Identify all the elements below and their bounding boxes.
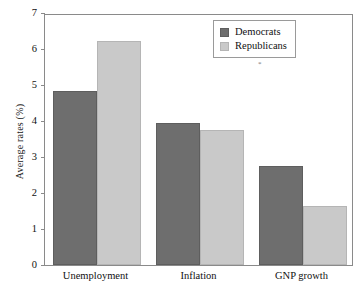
y-axis-tick-label: 6 bbox=[32, 44, 41, 55]
chart-legend: Democrats Republicans bbox=[213, 20, 296, 58]
bar-series-container bbox=[45, 15, 352, 265]
y-axis-tick-label: 1 bbox=[32, 224, 41, 235]
x-axis-tick-label: Unemployment bbox=[36, 270, 156, 281]
y-axis-tick-label: 3 bbox=[32, 152, 41, 163]
y-axis-tick-mark bbox=[41, 13, 45, 14]
legend-item: Democrats bbox=[220, 25, 287, 39]
legend-asterisk-annotation: * bbox=[258, 61, 262, 68]
legend-swatch-democrats bbox=[220, 28, 229, 37]
y-axis-tick-label: 5 bbox=[32, 80, 41, 91]
legend-item: Republicans bbox=[220, 39, 287, 53]
bar-group bbox=[45, 15, 354, 265]
legend-label-democrats: Democrats bbox=[235, 27, 280, 38]
bar-chart-figure: Average rates (%) 01234567 UnemploymentI… bbox=[0, 0, 360, 298]
y-axis-tick-label: 0 bbox=[32, 260, 41, 271]
y-axis-tick-label: 4 bbox=[32, 116, 41, 127]
bar-republicans-gnp-growth bbox=[303, 206, 347, 265]
y-axis-tick-label: 2 bbox=[32, 188, 41, 199]
y-axis-title: Average rates (%) bbox=[14, 62, 25, 222]
bar-democrats-gnp-growth bbox=[259, 166, 303, 265]
legend-swatch-republicans bbox=[220, 42, 229, 51]
x-axis-tick-label: Inflation bbox=[139, 270, 259, 281]
plot-area: 01234567 bbox=[44, 14, 353, 266]
legend-label-republicans: Republicans bbox=[235, 41, 287, 52]
y-axis-tick-label: 7 bbox=[32, 8, 41, 19]
x-axis-tick-label: GNP growth bbox=[242, 270, 360, 281]
